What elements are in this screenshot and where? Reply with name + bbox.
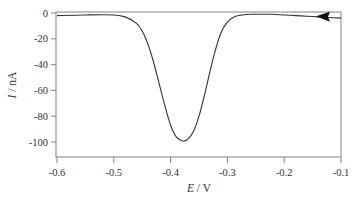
x-axis-ticks: -0.6-0.5-0.4-0.3-0.2-0.1 — [49, 157, 350, 178]
data-line — [57, 14, 341, 141]
axes — [56, 12, 341, 157]
y-tick-label: 0 — [43, 8, 48, 19]
y-tick-label: -100 — [29, 137, 48, 148]
scan-direction-arrow-icon — [316, 12, 330, 22]
y-tick-label: -80 — [34, 111, 48, 122]
y-tick-label: -20 — [34, 33, 48, 44]
y-tick-label: -40 — [34, 59, 48, 70]
voltammogram-chart: 0-20-40-60-80-100 -0.6-0.5-0.4-0.3-0.2-0… — [0, 0, 357, 199]
plot-frame — [56, 12, 341, 157]
y-axis-ticks: 0-20-40-60-80-100 — [29, 8, 56, 148]
x-axis-label: E / V — [186, 182, 212, 194]
x-tick-label: -0.1 — [333, 167, 350, 178]
x-tick-label: -0.4 — [162, 167, 179, 178]
x-tick-label: -0.2 — [276, 167, 293, 178]
x-tick-label: -0.5 — [105, 167, 122, 178]
y-axis-label: I / nA — [6, 71, 18, 100]
x-tick-label: -0.3 — [219, 167, 236, 178]
y-tick-label: -60 — [34, 85, 48, 96]
x-tick-label: -0.6 — [49, 167, 66, 178]
